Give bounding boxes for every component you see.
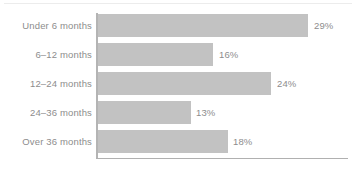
bar-row: Over 36 months 18% — [0, 130, 360, 153]
bar-value-label: 29% — [314, 14, 333, 37]
bar-category-label: Over 36 months — [0, 130, 92, 153]
bar-value-label: 16% — [219, 43, 238, 66]
bar-category-label: 6–12 months — [0, 43, 92, 66]
bar-row: 12–24 months 24% — [0, 72, 360, 95]
bar-6-12-months — [98, 43, 213, 66]
bar-value-label: 24% — [277, 72, 296, 95]
bar-category-label: Under 6 months — [0, 14, 92, 37]
bar-under-6-months — [98, 14, 308, 37]
bar-chart: Under 6 months 29% 6–12 months 16% 12–24… — [0, 0, 360, 172]
bar-value-label: 13% — [196, 101, 215, 124]
bar-category-label: 24–36 months — [0, 101, 92, 124]
bar-row: Under 6 months 29% — [0, 14, 360, 37]
value-axis-baseline — [96, 158, 348, 159]
plot-area: Under 6 months 29% 6–12 months 16% 12–24… — [0, 0, 360, 172]
bar-row: 24–36 months 13% — [0, 101, 360, 124]
bar-category-label: 12–24 months — [0, 72, 92, 95]
bar-over-36-months — [98, 130, 228, 153]
bar-12-24-months — [98, 72, 271, 95]
bar-value-label: 18% — [233, 130, 252, 153]
bar-row: 6–12 months 16% — [0, 43, 360, 66]
bar-24-36-months — [98, 101, 191, 124]
